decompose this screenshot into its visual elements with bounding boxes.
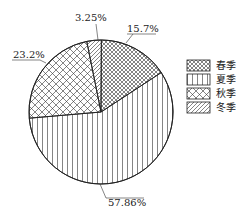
legend-autumn: 秋季 bbox=[216, 88, 236, 99]
legend-winter: 冬季 bbox=[216, 102, 236, 113]
leader-winter bbox=[96, 24, 98, 40]
label-autumn: 23.2% bbox=[13, 50, 45, 60]
legend-spring: 春季 bbox=[216, 60, 236, 71]
leader-summer bbox=[100, 184, 106, 198]
label-summer: 57.86% bbox=[108, 198, 146, 208]
leader-autumn bbox=[40, 60, 46, 63]
label-spring: 15.7% bbox=[127, 24, 159, 34]
label-winter: 3.25% bbox=[75, 13, 107, 23]
leader-spring bbox=[126, 34, 133, 43]
legend-summer: 夏季 bbox=[216, 74, 236, 85]
pie-chart bbox=[0, 0, 247, 215]
legend bbox=[187, 60, 210, 113]
